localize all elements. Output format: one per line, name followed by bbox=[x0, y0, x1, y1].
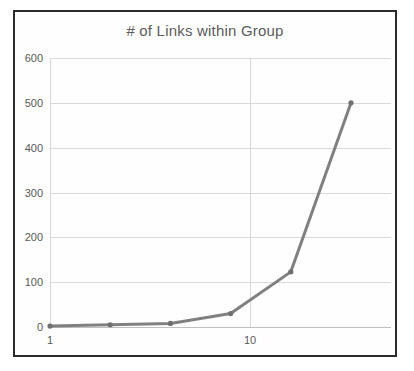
series-polyline bbox=[50, 103, 351, 326]
chart-frame: # of Links within Group 0100200300400500… bbox=[13, 10, 397, 357]
y-tick-label-0: 0 bbox=[37, 321, 43, 333]
y-tick-label-100: 100 bbox=[25, 276, 43, 288]
y-tick-label-200: 200 bbox=[25, 231, 43, 243]
x-tick-label-1: 1 bbox=[47, 334, 53, 346]
data-point-1 bbox=[47, 324, 52, 329]
data-point-32 bbox=[348, 100, 353, 105]
chart-canvas: # of Links within Group 0100200300400500… bbox=[15, 12, 395, 355]
y-tick-label-500: 500 bbox=[25, 97, 43, 109]
data-series-line bbox=[50, 58, 391, 327]
y-tick-label-300: 300 bbox=[25, 187, 43, 199]
gridline-y-0 bbox=[50, 327, 391, 328]
data-point-2 bbox=[108, 322, 113, 327]
data-point-8 bbox=[228, 311, 233, 316]
series-markers bbox=[47, 100, 353, 328]
data-point-16 bbox=[288, 269, 293, 274]
data-point-4 bbox=[168, 321, 173, 326]
y-tick-label-400: 400 bbox=[25, 142, 43, 154]
plot-area: 0100200300400500600 110 bbox=[50, 58, 391, 327]
chart-title: # of Links within Group bbox=[15, 22, 395, 39]
y-tick-label-600: 600 bbox=[25, 52, 43, 64]
x-tick-label-10: 10 bbox=[244, 334, 256, 346]
